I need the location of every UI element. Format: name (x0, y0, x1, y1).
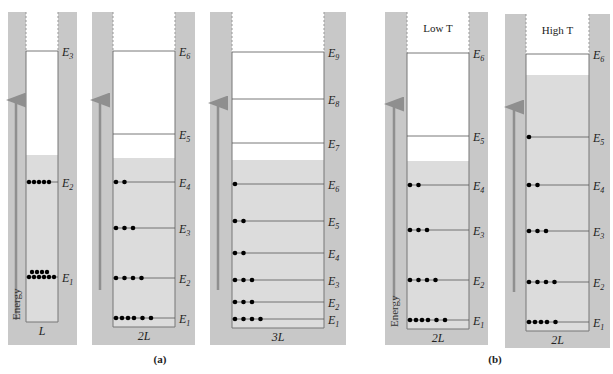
energy-level-subscript: 2 (480, 281, 484, 290)
electron (131, 226, 136, 231)
electron (233, 278, 238, 283)
energy-level-subscript: 4 (186, 183, 190, 192)
electron (545, 320, 550, 325)
well-width-label: L (38, 324, 46, 338)
electron (241, 251, 246, 256)
energy-level-subscript: 1 (600, 323, 604, 332)
energy-level-subscript: 9 (335, 53, 339, 62)
electron (233, 182, 238, 187)
electron (544, 280, 549, 285)
electron (527, 320, 532, 325)
energy-level-subscript: 6 (480, 54, 484, 63)
electron (114, 316, 119, 321)
electron (114, 180, 119, 185)
electron (535, 229, 540, 234)
energy-level-diagram: EnergyE1E2E3LE1E2E3E4E5E62LE1E2E3E4E5E6E… (0, 0, 613, 374)
electron (527, 229, 532, 234)
electron (42, 275, 46, 279)
electron (233, 251, 238, 256)
well-2L-lowT: EnergyLow TE1E2E3E4E5E62L (385, 12, 488, 345)
filled-states-region (407, 161, 469, 329)
electron (433, 278, 438, 283)
energy-level-subscript: 4 (480, 186, 484, 195)
electron (32, 275, 36, 279)
energy-level-subscript: 4 (335, 254, 339, 263)
energy-level-subscript: 3 (185, 229, 190, 238)
energy-level-subscript: 1 (69, 278, 73, 287)
electron (27, 180, 31, 184)
electron (539, 320, 544, 325)
electron (120, 316, 125, 321)
well-width-label: 2L (138, 329, 151, 343)
panel-caption-a: (a) (154, 353, 167, 366)
filled-states-region (526, 75, 589, 331)
electron (233, 219, 238, 224)
electron (149, 316, 154, 321)
energy-level-subscript: 5 (480, 137, 484, 146)
energy-level-subscript: 3 (68, 52, 73, 61)
electron (122, 226, 127, 231)
energy-level-subscript: 1 (335, 320, 339, 329)
electron (35, 270, 39, 274)
electron (140, 316, 145, 321)
electron (535, 183, 540, 188)
electron (131, 276, 136, 281)
electron (544, 229, 549, 234)
well-2L-highT: High TE1E2E3E4E5E62L (505, 14, 610, 348)
well-L: EnergyE1E2E3L (8, 12, 77, 345)
electron (258, 317, 263, 322)
electron (425, 228, 430, 233)
energy-level-subscript: 2 (335, 303, 339, 312)
energy-level-subscript: 3 (479, 231, 484, 240)
electron (45, 270, 49, 274)
electron (527, 280, 532, 285)
electron (416, 228, 421, 233)
well-width-label: 2L (432, 331, 445, 345)
electron (233, 300, 238, 305)
electron (241, 278, 246, 283)
well-width-label: 2L (551, 333, 564, 347)
electron (52, 275, 56, 279)
electron (408, 183, 413, 188)
energy-level-subscript: 2 (186, 279, 190, 288)
electron (122, 180, 127, 185)
electron (552, 280, 557, 285)
well-3L: E1E2E3E4E5E6E7E8E93L (210, 12, 346, 345)
electron (122, 276, 127, 281)
electron (114, 276, 119, 281)
energy-level-subscript: 5 (600, 138, 604, 147)
electron (250, 317, 255, 322)
temperature-label: High T (542, 24, 574, 36)
electron (37, 180, 41, 184)
electron (250, 278, 255, 283)
temperature-label: Low T (423, 22, 453, 34)
electron (553, 320, 558, 325)
electron (114, 226, 119, 231)
electron (535, 280, 540, 285)
electron (416, 278, 421, 283)
energy-level-subscript: 8 (335, 100, 339, 109)
electron (250, 300, 255, 305)
electron (414, 318, 419, 323)
energy-level-subscript: 1 (480, 321, 484, 330)
electron (425, 278, 430, 283)
electron (533, 320, 538, 325)
well-2L: E1E2E3E4E5E62L (92, 12, 195, 345)
filled-states-region (113, 158, 175, 327)
electron (27, 275, 31, 279)
electron (47, 275, 51, 279)
energy-level-subscript: 6 (600, 55, 604, 64)
energy-axis-label: Energy (10, 288, 22, 320)
electron (527, 135, 532, 140)
electron (132, 316, 137, 321)
energy-level-subscript: 1 (186, 319, 190, 328)
electron (443, 318, 448, 323)
electron (32, 180, 36, 184)
electron (408, 318, 413, 323)
energy-axis-label: Energy (388, 295, 400, 327)
electron (527, 183, 532, 188)
electron (139, 276, 144, 281)
electron (416, 183, 421, 188)
electron (30, 270, 34, 274)
filled-states-region (232, 160, 324, 328)
